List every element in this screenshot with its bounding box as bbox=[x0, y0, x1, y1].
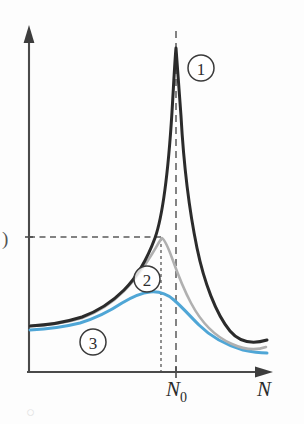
x-axis-label: N bbox=[256, 377, 272, 401]
curve-1-path bbox=[30, 48, 267, 342]
y-axis-value-label: ) bbox=[2, 228, 8, 250]
marker-3: 3 bbox=[80, 329, 106, 355]
caption-ghost-mark: ○ bbox=[26, 404, 36, 421]
marker-3-label: 3 bbox=[89, 334, 98, 353]
marker-1-label: 1 bbox=[197, 60, 206, 79]
curves-group bbox=[30, 48, 267, 353]
x-axis-arrowhead bbox=[255, 367, 273, 378]
marker-1: 1 bbox=[188, 55, 214, 81]
axis-labels-group: ) N N 0 bbox=[2, 228, 272, 405]
chart-canvas: 1 2 3 ) N N 0 bbox=[0, 0, 304, 424]
y-axis-arrowhead bbox=[24, 25, 35, 43]
figure-root: 1 2 3 ) N N 0 ○ bbox=[0, 0, 304, 424]
marker-2-label: 2 bbox=[143, 271, 152, 290]
marker-2: 2 bbox=[134, 266, 160, 292]
axes-group bbox=[24, 25, 273, 377]
x-tick-label-n0: N bbox=[165, 377, 181, 401]
x-tick-label-n0-subscript: 0 bbox=[180, 390, 187, 405]
